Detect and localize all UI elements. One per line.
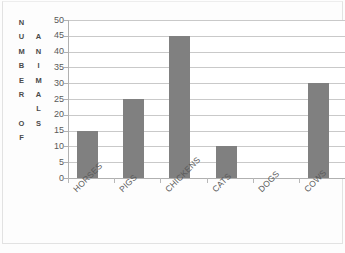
- y-axis-tick: [64, 20, 68, 21]
- gridline: [68, 67, 345, 68]
- x-axis-tick: [160, 178, 161, 183]
- axis-title-letter: N: [15, 16, 28, 30]
- y-axis-tick-label: 30: [44, 79, 64, 88]
- y-axis-tick-label: 10: [44, 142, 64, 151]
- y-axis-tick-label: 35: [44, 63, 64, 72]
- x-axis-tick: [207, 178, 208, 183]
- gridline: [68, 36, 345, 37]
- y-axis-tick: [64, 67, 68, 68]
- plot-area: [68, 20, 345, 178]
- y-axis-tick: [64, 131, 68, 132]
- bar-chart: NUMBER OF ANIMALS 50454035302520151050 H…: [0, 0, 345, 253]
- y-axis-tick-label: 40: [44, 47, 64, 56]
- axis-title-letter: B: [15, 59, 28, 73]
- y-axis-tick: [64, 115, 68, 116]
- axis-title-letter: F: [15, 131, 28, 145]
- y-axis-tick-label: 5: [44, 158, 64, 167]
- gridline: [68, 162, 345, 163]
- y-axis-tick-label: 20: [44, 110, 64, 119]
- axis-title-letter: [15, 102, 28, 116]
- y-axis-title-column-number-of: NUMBER OF: [15, 16, 28, 146]
- x-axis-tick: [114, 178, 115, 183]
- gridline: [68, 115, 345, 116]
- y-axis-line: [68, 20, 69, 178]
- y-axis-tick-label: 15: [44, 126, 64, 135]
- axis-title-letter: M: [15, 45, 28, 59]
- y-axis-tick: [64, 162, 68, 163]
- axis-title-letter: U: [15, 30, 28, 44]
- x-axis-tick: [253, 178, 254, 183]
- y-axis-tick-label: 45: [44, 31, 64, 40]
- x-axis-tick: [68, 178, 69, 183]
- bar-chickens: [169, 36, 190, 178]
- y-axis-tick-label: 50: [44, 16, 64, 25]
- gridline: [68, 20, 345, 21]
- y-axis-tick: [64, 36, 68, 37]
- axis-title-letter: E: [15, 74, 28, 88]
- axis-title-letter: R: [15, 88, 28, 102]
- gridline: [68, 52, 345, 53]
- bar-cows: [308, 83, 329, 178]
- y-axis-tick: [64, 52, 68, 53]
- y-axis-tick: [64, 146, 68, 147]
- gridline: [68, 131, 345, 132]
- bar-pigs: [123, 99, 144, 178]
- y-axis-tick-label: 0: [44, 174, 64, 183]
- axis-title-letter: O: [15, 117, 28, 131]
- gridline: [68, 146, 345, 147]
- y-axis-tick: [64, 99, 68, 100]
- y-axis-tick: [64, 83, 68, 84]
- y-axis-tick-label: 25: [44, 95, 64, 104]
- x-axis-tick: [299, 178, 300, 183]
- gridline: [68, 83, 345, 84]
- gridline: [68, 99, 345, 100]
